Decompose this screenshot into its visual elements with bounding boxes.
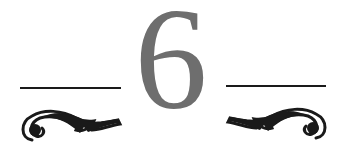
chapter-heading: 6 [0,0,342,153]
right-scroll-flourish-icon [222,98,330,144]
right-rule [226,85,326,87]
left-scroll-flourish-icon [18,100,126,146]
